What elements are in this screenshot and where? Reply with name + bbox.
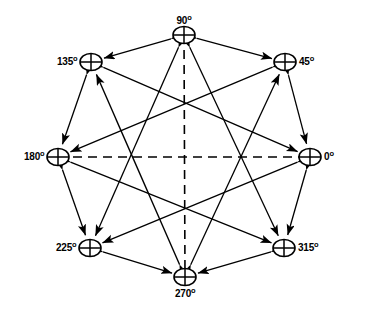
node-180[interactable] xyxy=(47,149,69,166)
edge-n90-n315 xyxy=(190,47,279,236)
degree-symbol-180: o xyxy=(40,149,44,158)
edge-n135-n180 xyxy=(62,75,86,144)
edge-n90-n45 xyxy=(197,38,272,58)
edge-n135-n0 xyxy=(103,67,297,151)
node-label-315: 315o xyxy=(298,241,318,253)
node-label-225: 225o xyxy=(56,241,76,253)
degree-symbol-135: o xyxy=(73,54,77,63)
edge-n90-n135 xyxy=(104,39,171,58)
edge-n180-n315 xyxy=(71,162,272,243)
vertical-axis xyxy=(184,35,185,277)
diagram-canvas: 0o45o90o135o180o225o270o315o xyxy=(0,0,365,317)
node-label-value-90: 90 xyxy=(177,15,188,26)
edge-n45-n180 xyxy=(70,67,272,152)
node-90[interactable] xyxy=(173,27,195,44)
node-label-value-135: 135 xyxy=(57,56,73,67)
octagon-graph-svg xyxy=(0,0,365,317)
degree-symbol-315: o xyxy=(314,240,318,249)
node-label-90: 90o xyxy=(177,14,192,26)
node-label-45: 45o xyxy=(299,55,314,67)
node-label-value-180: 180 xyxy=(24,151,40,162)
node-label-180: 180o xyxy=(24,150,44,162)
node-225[interactable] xyxy=(79,240,101,257)
edge-n45-n0 xyxy=(288,75,306,144)
node-label-270: 270o xyxy=(175,287,195,299)
edge-n90-n225 xyxy=(95,47,178,235)
node-135[interactable] xyxy=(80,54,102,71)
edge-n180-n225 xyxy=(62,170,85,236)
node-0[interactable] xyxy=(299,149,321,166)
node-label-value-315: 315 xyxy=(298,242,314,253)
degree-symbol-225: o xyxy=(72,240,76,249)
edge-n225-n270 xyxy=(103,252,172,273)
node-label-value-270: 270 xyxy=(175,288,191,299)
node-label-135: 135o xyxy=(57,55,77,67)
degree-symbol-90: o xyxy=(187,13,191,22)
degree-symbol-0: o xyxy=(329,149,333,158)
node-label-value-225: 225 xyxy=(56,242,72,253)
node-270[interactable] xyxy=(174,269,196,286)
edge-n270-n45 xyxy=(191,74,280,265)
node-label-0: 0o xyxy=(324,150,334,162)
degree-symbol-45: o xyxy=(310,54,314,63)
edge-n315-n270 xyxy=(198,252,271,273)
node-315[interactable] xyxy=(273,240,295,257)
node-45[interactable] xyxy=(274,54,296,71)
edge-n0-n225 xyxy=(102,162,297,243)
degree-symbol-270: o xyxy=(191,286,195,295)
edge-n0-n315 xyxy=(288,170,307,235)
edge-n270-n135 xyxy=(96,74,179,264)
node-label-value-45: 45 xyxy=(299,56,310,67)
